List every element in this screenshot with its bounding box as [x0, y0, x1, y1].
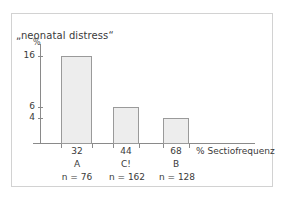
x-n-label-0: n = 76 [49, 172, 105, 182]
x-n-label-2: n = 128 [149, 172, 205, 182]
x-group-label-0: A [57, 159, 97, 169]
x-group-label-2: B [156, 159, 196, 169]
y-tick-label-16: 16 [19, 50, 35, 60]
y-tick-label-6: 6 [19, 101, 35, 111]
x-group-label-1: C! [106, 159, 146, 169]
bar-series-2 [163, 118, 189, 144]
x-tick-label-0: 32 [57, 146, 97, 156]
x-n-label-1: n = 162 [99, 172, 155, 182]
bar-series-0 [61, 56, 92, 144]
y-tick-mark-4 [38, 118, 43, 119]
chart-title: „neonatal distress“ [16, 30, 114, 41]
y-tick-mark-16 [38, 56, 43, 57]
x-tick-label-2: 68 [156, 146, 196, 156]
y-tick-mark-6 [38, 107, 43, 108]
y-axis-line [40, 44, 41, 144]
x-axis-title: % Sectiofrequenz [196, 146, 275, 156]
y-tick-label-4: 4 [19, 112, 35, 122]
x-tick-label-1: 44 [106, 146, 146, 156]
y-axis-unit-label: % [33, 38, 41, 47]
bar-series-1 [113, 107, 139, 144]
chart-figure: „neonatal distress“ % 16 6 4 32 44 68 A … [0, 0, 286, 198]
